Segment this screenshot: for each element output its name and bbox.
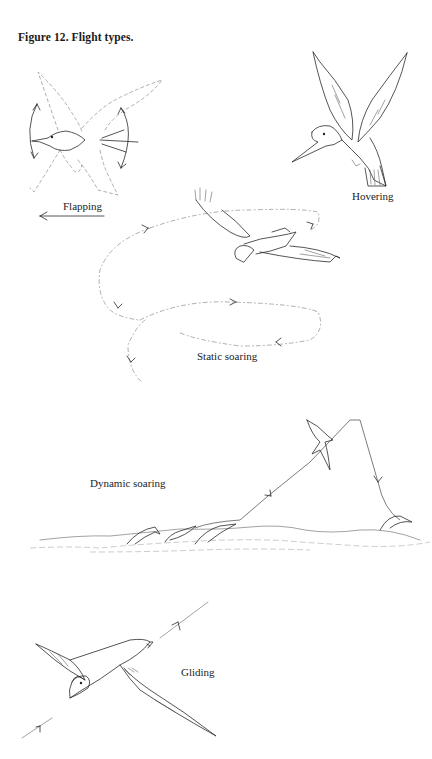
dynamic-soaring-path bbox=[195, 420, 400, 528]
flapping-label: Flapping bbox=[63, 200, 102, 212]
static-soaring-label: Static soaring bbox=[197, 350, 257, 362]
hovering-label: Hovering bbox=[352, 190, 394, 202]
figure-illustration bbox=[0, 0, 432, 759]
gliding-label: Gliding bbox=[181, 666, 215, 678]
hovering-bird-illustration bbox=[292, 52, 407, 186]
static-soaring-bird-illustration bbox=[195, 188, 340, 262]
dynamic-soaring-birds bbox=[127, 420, 412, 544]
flapping-bird-illustration bbox=[30, 72, 162, 195]
dynamic-soaring-water bbox=[30, 526, 430, 552]
flapping-direction-arrow bbox=[40, 212, 104, 220]
dynamic-soaring-label: Dynamic soaring bbox=[90, 477, 165, 489]
gliding-bird-illustration bbox=[36, 639, 216, 736]
